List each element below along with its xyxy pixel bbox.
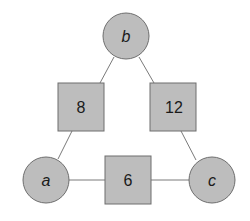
edge-12-c [181, 131, 196, 160]
variable-node-a: a [23, 157, 69, 203]
factor-node-12: 12 [150, 83, 196, 131]
edge-b-8 [100, 57, 114, 83]
variable-label-c: c [208, 172, 216, 189]
edge-8-a [58, 131, 72, 159]
factor-graph-diagram: 8 12 6 b a c [0, 0, 250, 221]
variable-node-b: b [103, 13, 149, 59]
variable-node-c: c [189, 157, 235, 203]
factor-label-12: 12 [165, 99, 183, 116]
factor-label-8: 8 [77, 99, 86, 116]
variable-label-b: b [122, 28, 131, 45]
factor-label-6: 6 [124, 172, 133, 189]
edge-b-12 [139, 57, 154, 83]
factor-node-6: 6 [105, 156, 151, 204]
factor-node-8: 8 [58, 83, 104, 131]
variable-label-a: a [42, 172, 51, 189]
